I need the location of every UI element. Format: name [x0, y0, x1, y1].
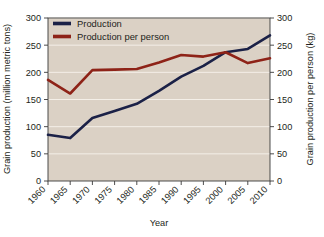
x-axis-tick-label: 1990: [159, 184, 181, 206]
x-axis-tick-label: 1995: [181, 184, 203, 206]
y-axis-left-title: Grain production (million metric tons): [2, 24, 12, 174]
y-axis-right-title: Grain production per person (kg): [305, 33, 315, 166]
x-axis-ticks: 1960196519701975198019851990199520002005…: [26, 181, 270, 206]
x-axis-tick-label: 1985: [137, 184, 159, 206]
y-axis-left-tick-label: 300: [26, 13, 41, 23]
y-axis-right-tick-label: 0: [277, 176, 282, 186]
x-axis-tick-label: 2010: [248, 184, 270, 206]
x-axis-tick-label: 2005: [226, 184, 248, 206]
y-axis-right-tick-label: 50: [277, 149, 287, 159]
y-axis-left-ticks: 050100150200250300: [26, 13, 48, 186]
x-axis-title: Year: [150, 218, 169, 228]
y-axis-left-tick-label: 250: [26, 41, 41, 51]
y-axis-right-tick-label: 300: [277, 13, 292, 23]
x-axis-tick-label: 1960: [26, 184, 48, 206]
x-axis-tick-label: 1975: [92, 184, 114, 206]
y-axis-left-tick-label: 100: [26, 122, 41, 132]
y-axis-left-tick-label: 150: [26, 95, 41, 105]
y-axis-right-ticks: 050100150200250300: [270, 13, 292, 186]
y-axis-left-tick-label: 50: [31, 149, 41, 159]
x-axis-tick-label: 1980: [115, 184, 137, 206]
y-axis-left-tick-label: 200: [26, 68, 41, 78]
y-axis-right-tick-label: 250: [277, 41, 292, 51]
chart-container: 050100150200250300 050100150200250300 19…: [0, 0, 324, 237]
y-axis-right-tick-label: 200: [277, 68, 292, 78]
x-axis-tick-label: 2000: [203, 184, 225, 206]
grain-production-line-chart: 050100150200250300 050100150200250300 19…: [0, 0, 324, 237]
y-axis-right-tick-label: 100: [277, 122, 292, 132]
y-axis-right-tick-label: 150: [277, 95, 292, 105]
legend-label-production-per-person: Production per person: [77, 31, 169, 42]
x-axis-tick-label: 1970: [70, 184, 92, 206]
x-axis-tick-label: 1965: [48, 184, 70, 206]
legend-label-production: Production: [77, 18, 122, 29]
